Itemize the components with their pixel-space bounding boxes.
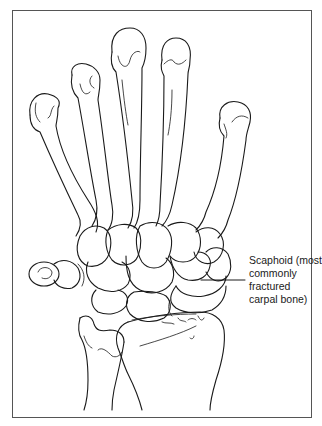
- carpal-bones: [29, 248, 231, 322]
- thumb-metacarpal: [196, 102, 251, 238]
- radius-bone: [116, 312, 224, 410]
- annotation-line-4: carpal bone): [249, 293, 319, 306]
- annotation-line-1: Scaphoid (most: [249, 254, 319, 267]
- scaphoid-annotation: Scaphoid (most commonly fractured carpal…: [249, 254, 319, 306]
- little-finger-metacarpal: [30, 94, 98, 236]
- index-finger-metacarpal: [156, 38, 190, 226]
- middle-finger-metacarpal: [111, 28, 146, 228]
- metacarpal-bases: [77, 222, 223, 268]
- ring-finger-metacarpal: [71, 63, 112, 230]
- annotation-line-2: commonly: [249, 267, 319, 280]
- annotation-line-3: fractured: [249, 280, 319, 293]
- ulna-bone: [79, 316, 124, 410]
- hand-wrist-bones-illustration: [0, 0, 322, 426]
